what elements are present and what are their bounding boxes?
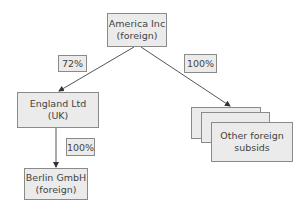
- node-berlin-gmbh-name: Berlin GmbH: [26, 172, 86, 184]
- node-america-inc-note: (foreign): [117, 30, 158, 42]
- node-england-ltd-name: England Ltd (UK): [18, 98, 98, 122]
- node-other-subs-name: Other foreign: [220, 130, 283, 142]
- node-other-subs-front: Other foreign subsids: [211, 122, 293, 162]
- node-england-ltd: England Ltd (UK): [17, 92, 99, 128]
- node-berlin-gmbh-note: (foreign): [36, 184, 77, 196]
- edge-label-72: 72%: [58, 55, 87, 72]
- edge-label-100-other: 100%: [184, 54, 217, 73]
- node-america-inc: America Inc (foreign): [107, 13, 167, 47]
- node-berlin-gmbh: Berlin GmbH (foreign): [24, 168, 88, 200]
- node-america-inc-name: America Inc: [109, 18, 165, 30]
- node-other-subs-note: subsids: [234, 142, 270, 154]
- edge-label-100-berlin: 100%: [66, 138, 95, 156]
